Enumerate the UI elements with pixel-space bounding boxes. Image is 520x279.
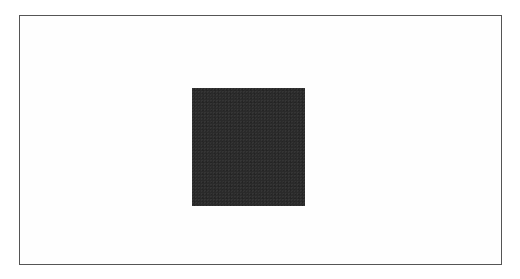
dark-square [192,88,305,206]
figure-canvas [0,0,520,279]
